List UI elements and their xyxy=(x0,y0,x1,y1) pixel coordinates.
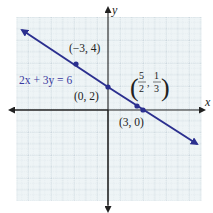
label-point-neg3-4: (−3, 4) xyxy=(69,42,101,55)
frac2-denominator: 3 xyxy=(154,83,159,94)
label-point-0-2: (0, 2) xyxy=(74,90,99,103)
left-paren: ( xyxy=(130,73,139,102)
svg-text:,: , xyxy=(147,77,150,88)
right-paren: ) xyxy=(161,73,170,102)
x-axis-label: x xyxy=(204,95,211,109)
frac1-denominator: 2 xyxy=(139,83,144,94)
coordinate-plane: x y (−3, 4) 2x + 3y = 6 (0, 2) (3, 0) ( … xyxy=(0,0,213,213)
y-axis-label: y xyxy=(111,3,118,17)
point-3-0 xyxy=(140,107,145,112)
point-neg3-4 xyxy=(73,61,78,66)
point-5-2-1-3 xyxy=(134,103,139,108)
point-0-2 xyxy=(105,84,110,89)
frac1-numerator: 5 xyxy=(139,70,144,81)
equation-label: 2x + 3y = 6 xyxy=(19,74,72,87)
label-point-3-0: (3, 0) xyxy=(119,116,144,129)
frac2-numerator: 1 xyxy=(154,70,159,81)
